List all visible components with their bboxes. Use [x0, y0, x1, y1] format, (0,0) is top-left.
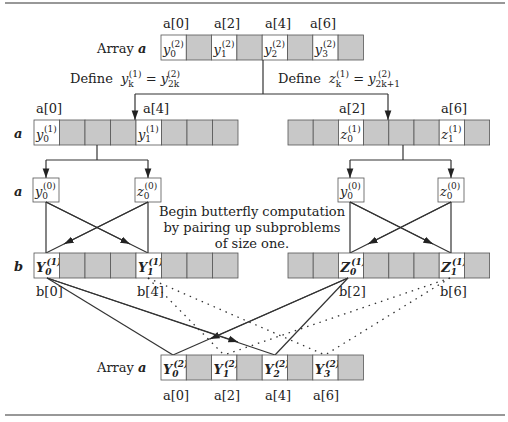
array-a-top-label: Array a	[96, 41, 147, 56]
index-label: a[6]	[441, 101, 467, 116]
array-cell	[338, 35, 363, 60]
caption-line: of size one.	[215, 236, 289, 251]
array-cell	[186, 35, 211, 60]
index-label: a[6]	[310, 16, 336, 31]
array-cell	[237, 35, 262, 60]
array-cell	[414, 120, 439, 145]
array-a-bottom-label: Array a	[96, 360, 147, 375]
index-label: b[0]	[36, 284, 63, 299]
array-cell	[364, 120, 389, 145]
left-mid-array: y0(1)y1(1)	[34, 120, 238, 145]
right-butterfly	[350, 202, 451, 253]
array-cell	[85, 253, 111, 278]
array-cell	[187, 120, 213, 145]
array-cell	[288, 355, 313, 380]
index-label: b[6]	[440, 284, 467, 299]
array-cell	[187, 253, 213, 278]
final-butterfly-dotted	[148, 278, 450, 355]
array-cell	[288, 35, 313, 60]
array-cell	[111, 253, 137, 278]
array-cell	[313, 120, 338, 145]
array-cell	[213, 253, 239, 278]
array-cell	[288, 120, 313, 145]
index-label: a[2]	[339, 101, 365, 116]
array-cell	[338, 355, 363, 380]
array-cell	[213, 120, 239, 145]
array-cell	[389, 253, 414, 278]
index-label: a[0]	[163, 16, 189, 31]
row-label-b: b	[14, 259, 23, 274]
array-cell	[288, 253, 313, 278]
array-cell	[186, 355, 211, 380]
index-label: b[2]	[339, 284, 366, 299]
left-b-array: Y0(1)Y1(1)	[34, 253, 238, 278]
array-cell	[60, 253, 86, 278]
left-butterfly	[46, 202, 148, 253]
caption-line: Begin butterfly computation	[159, 204, 346, 219]
index-label: b[4]	[137, 284, 164, 299]
array-cell	[414, 253, 439, 278]
array-cell	[364, 253, 389, 278]
define-y-text: Define yk(1) = y2k(2)	[70, 69, 180, 89]
top-array-index-labels: a[0] a[2] a[4] a[6]	[163, 16, 336, 31]
array-cell	[60, 120, 86, 145]
array-cell	[162, 253, 188, 278]
index-label: a[4]	[265, 16, 291, 31]
row-label-a: a	[14, 126, 22, 141]
define-z-text: Define zk(1) = y2k+1(2)	[278, 69, 400, 89]
top-array: y0(2)y1(2)y2(2)y3(2)	[161, 35, 363, 60]
leaf-boxes: y0(0)z0(0)y0(0)z0(0)	[33, 178, 464, 202]
array-cell	[464, 120, 489, 145]
index-label: a[2]	[214, 388, 240, 403]
right-b-array: Z0(1)Z1(1)	[288, 253, 490, 278]
caption: Begin butterfly computation by pairing u…	[159, 204, 346, 251]
index-label: a[4]	[143, 101, 169, 116]
caption-line: by pairing up subproblems	[164, 220, 341, 235]
fft-butterfly-diagram: a[0] a[2] a[4] a[6] Array a y0(2)y1(2)y2…	[0, 0, 508, 422]
index-label: a[0]	[36, 101, 62, 116]
array-cell	[313, 253, 338, 278]
index-label: a[4]	[265, 388, 291, 403]
index-label: a[0]	[163, 388, 189, 403]
final-butterfly-solid	[47, 278, 348, 355]
bottom-array: Y0(2)Y1(2)Y2(2)Y3(2)	[161, 355, 363, 380]
array-cell	[111, 120, 137, 145]
array-cell	[162, 120, 188, 145]
index-label: a[6]	[313, 388, 339, 403]
index-label: a[2]	[214, 16, 240, 31]
array-cell	[85, 120, 111, 145]
array-cell	[237, 355, 262, 380]
right-mid-array: z0(1)z1(1)	[288, 120, 490, 145]
row-label-a: a	[14, 184, 22, 199]
array-cell	[464, 253, 489, 278]
array-cell	[389, 120, 414, 145]
